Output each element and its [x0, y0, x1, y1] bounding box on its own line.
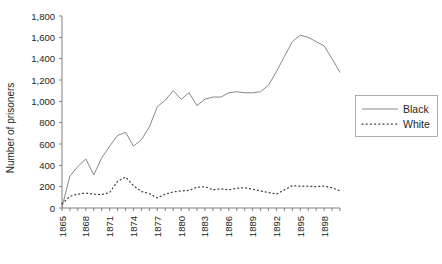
prisoners-line-chart: 1,8001,6001,4001,2001,0008006004002000 1… [0, 0, 442, 264]
x-tick-label: 1877 [152, 216, 163, 237]
x-tick-label: 1883 [199, 216, 210, 237]
chart-container: 1,8001,6001,4001,2001,0008006004002000 1… [0, 0, 442, 264]
y-tick-label: 800 [39, 117, 55, 128]
legend-label-white: White [403, 118, 430, 130]
y-tick-label: 1,000 [31, 96, 55, 107]
y-tick-label: 0 [50, 203, 55, 214]
y-axis-tick-labels: 1,8001,6001,4001,2001,0008006004002000 [31, 11, 55, 214]
series-line-white [62, 177, 340, 204]
legend-label-black: Black [403, 103, 429, 115]
y-tick-label: 1,600 [31, 32, 55, 43]
y-axis-title: Number of prisoners [5, 83, 16, 174]
chart-legend: Black White [356, 96, 438, 137]
x-tick-label: 1889 [247, 216, 258, 237]
y-tick-label: 1,400 [31, 53, 55, 64]
x-tick-label: 1871 [104, 216, 115, 237]
y-tick-label: 600 [39, 139, 55, 150]
y-tick-label: 200 [39, 181, 55, 192]
x-tick-label: 1895 [295, 216, 306, 237]
x-tick-label: 1886 [223, 216, 234, 237]
y-tick-label: 1,200 [31, 75, 55, 86]
x-tick-label: 1865 [57, 216, 68, 237]
y-tick-label: 1,800 [31, 11, 55, 22]
x-tick-label: 1868 [80, 216, 91, 237]
y-tick-label: 400 [39, 160, 55, 171]
legend-box [356, 96, 438, 137]
x-tick-label: 1880 [176, 216, 187, 237]
x-axis-tick-labels: 1865186818711874187718801883188618891892… [57, 216, 330, 237]
series-line-black [62, 35, 340, 207]
x-tick-label: 1892 [271, 216, 282, 237]
x-tick-label: 1898 [319, 216, 330, 237]
x-tick-label: 1874 [128, 216, 139, 237]
